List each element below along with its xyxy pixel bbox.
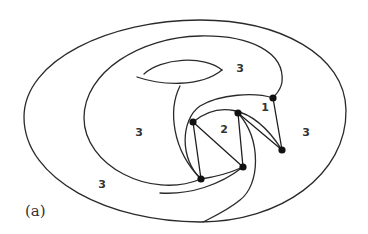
edge-v1-v6 <box>193 122 243 167</box>
hole-descending-curve <box>174 86 201 179</box>
arc-to-v3 <box>185 95 273 179</box>
vertex-dot <box>239 163 246 170</box>
inner-loop-curve <box>84 36 282 185</box>
region-label-left-inner: 3 <box>135 127 143 138</box>
vertex-dot <box>197 175 204 182</box>
region-label-left-outer: 3 <box>98 179 106 190</box>
bottom-arc-v5-v6 <box>201 167 243 179</box>
descending-arc-v2 <box>203 113 256 222</box>
edge-v3-v4 <box>273 98 282 150</box>
region-label-top: 3 <box>236 63 244 74</box>
torus-region-diagram: 3 3 3 3 1 2 (a) <box>0 0 368 234</box>
diagram-drawing <box>0 0 368 234</box>
region-label-one: 1 <box>261 102 269 113</box>
edge-v2-v6 <box>238 113 243 167</box>
vertex-dot <box>189 118 196 125</box>
torus-hole-bottom-curve <box>137 70 222 83</box>
torus-hole-top-curve <box>144 60 222 74</box>
edge-v2-v4 <box>238 113 282 150</box>
region-label-right: 3 <box>302 127 310 138</box>
vertex-dot <box>278 146 285 153</box>
region-label-two: 2 <box>220 124 228 135</box>
vertex-dot <box>269 94 276 101</box>
vertex-dot <box>234 109 241 116</box>
figure-caption: (a) <box>25 204 46 219</box>
